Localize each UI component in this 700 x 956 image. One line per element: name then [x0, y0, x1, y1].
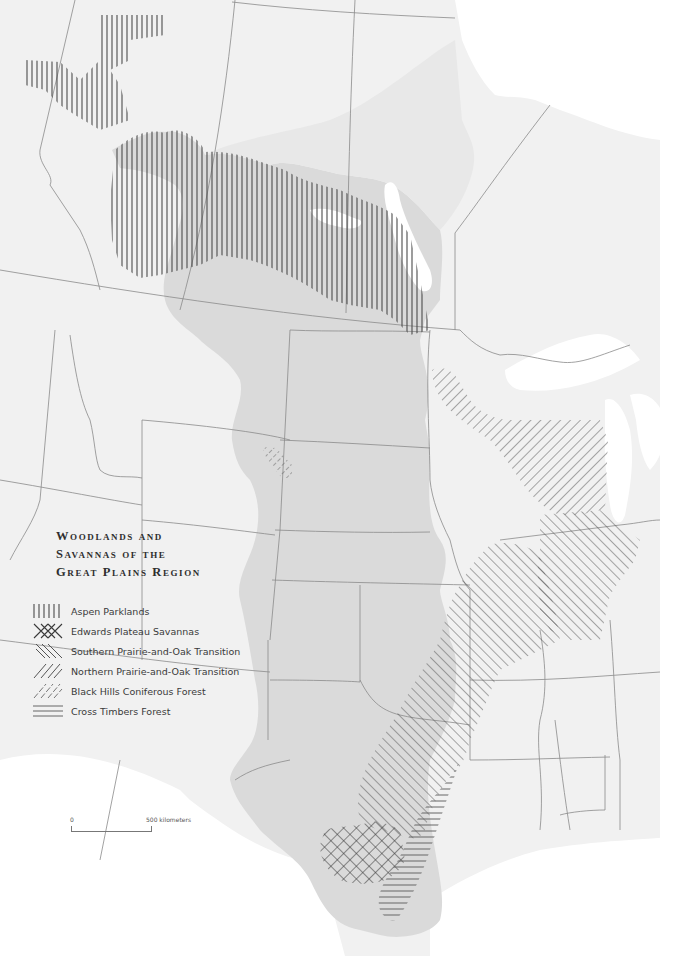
legend-item-aspen-parklands: Aspen Parklands	[30, 601, 240, 621]
legend-item-cross-timbers: Cross Timbers Forest	[30, 701, 240, 721]
legend-label: Edwards Plateau Savannas	[71, 626, 199, 637]
legend-item-northern-prairie-oak: Northern Prairie-and-Oak Transition	[30, 661, 240, 681]
scale-start-label: 0	[70, 816, 74, 823]
legend-item-edwards-plateau: Edwards Plateau Savannas	[30, 621, 240, 641]
east-margin	[660, 140, 700, 956]
scale-end-label: 500 kilometers	[146, 816, 191, 823]
legend-label: Aspen Parklands	[71, 606, 149, 617]
legend-label: Northern Prairie-and-Oak Transition	[71, 666, 239, 677]
map-title-line-3: Great Plains Region	[56, 563, 201, 581]
map-title: Woodlands and Savannas of the Great Plai…	[56, 527, 201, 581]
backslash-pattern-icon	[30, 643, 64, 659]
legend-label: Black Hills Coniferous Forest	[71, 686, 206, 697]
vertical-lines-pattern-icon	[30, 603, 64, 619]
scale-bar-line	[71, 826, 152, 832]
scale-bar: 0 500 kilometers	[68, 816, 238, 846]
slash-pattern-icon	[30, 663, 64, 679]
map-title-line-2: Savannas of the	[56, 545, 201, 563]
legend-item-southern-prairie-oak: Southern Prairie-and-Oak Transition	[30, 641, 240, 661]
horizontal-lines-pattern-icon	[30, 703, 64, 719]
map-page: Woodlands and Savannas of the Great Plai…	[0, 0, 700, 956]
legend-item-black-hills: Black Hills Coniferous Forest	[30, 681, 240, 701]
map-title-line-1: Woodlands and	[56, 527, 201, 545]
crosshatch-pattern-icon	[30, 623, 64, 639]
legend-label: Southern Prairie-and-Oak Transition	[71, 646, 240, 657]
legend-label: Cross Timbers Forest	[71, 706, 170, 717]
map-legend: Aspen Parklands Edwards Plateau Savannas…	[30, 601, 240, 721]
great-plains-map	[0, 0, 700, 956]
light-slash-pattern-icon	[30, 683, 64, 699]
